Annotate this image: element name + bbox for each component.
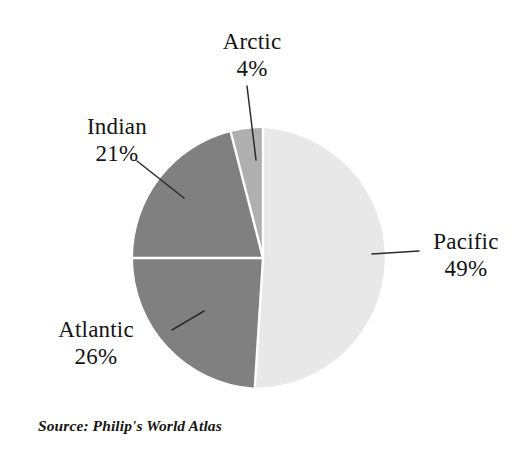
pie-slice-pacific [255, 128, 385, 388]
pie-label-atlantic-value: 26% [22, 343, 170, 370]
pie-label-arctic-name: Arctic [186, 28, 318, 55]
pie-label-arctic-value: 4% [186, 55, 318, 82]
pie-label-indian-name: Indian [52, 113, 182, 140]
source-note: Source: Philip's World Atlas [38, 417, 222, 435]
pie-label-indian-value: 21% [52, 140, 182, 167]
pie-label-pacific: Pacific 49% [410, 228, 522, 282]
pie-label-pacific-value: 49% [410, 255, 522, 282]
pie-label-pacific-name: Pacific [410, 228, 522, 255]
pie-label-arctic: Arctic 4% [186, 28, 318, 82]
pie-label-atlantic: Atlantic 26% [22, 316, 170, 370]
pie-label-atlantic-name: Atlantic [22, 316, 170, 343]
pie-chart-figure: Arctic 4% Indian 21% Atlantic 26% Pacifi… [0, 0, 528, 452]
pie-label-indian: Indian 21% [52, 113, 182, 167]
